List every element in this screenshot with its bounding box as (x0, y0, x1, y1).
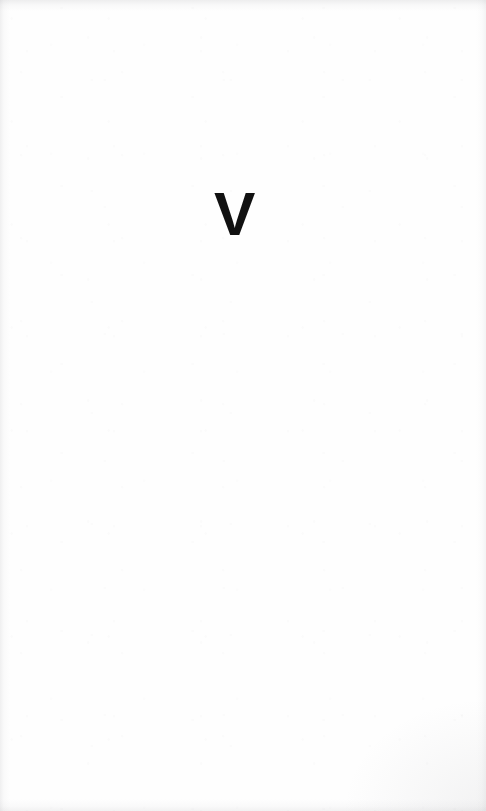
paper-texture (0, 0, 486, 811)
scanned-page: V (0, 0, 486, 811)
part-numeral: V (214, 189, 252, 239)
page-edge-vignette (0, 0, 486, 811)
scan-smudge (346, 701, 486, 811)
